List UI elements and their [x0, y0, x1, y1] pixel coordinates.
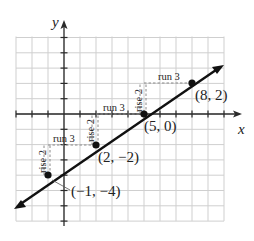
- axes: [16, 26, 236, 226]
- x-axis-label: x: [237, 121, 245, 137]
- rise-label-1: rise 2: [37, 150, 48, 173]
- coordinate-graph: x y (−1, −4) (2, −2) (5, 0) (8, 2) run 3…: [0, 0, 254, 241]
- run-label-1: run 3: [53, 133, 75, 144]
- run-label-3: run 3: [158, 71, 180, 82]
- point-label-8-2: (8, 2): [195, 87, 228, 104]
- rise-label-3: rise 2: [133, 89, 144, 112]
- point-label-5-0: (5, 0): [144, 118, 177, 135]
- point-label-neg1-neg4: (−1, −4): [71, 183, 120, 200]
- point-8-2: [188, 79, 195, 86]
- run-label-2: run 3: [103, 102, 125, 113]
- point-label-2-neg2: (2, −2): [98, 149, 139, 166]
- leader-line: [52, 180, 70, 190]
- rise-label-2: rise 2: [85, 119, 96, 142]
- y-axis-label: y: [50, 14, 59, 30]
